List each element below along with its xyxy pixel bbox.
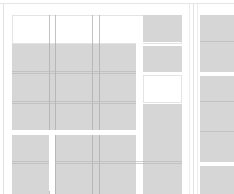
grid-line-h5 bbox=[12, 161, 182, 162]
grid-line-h1 bbox=[12, 71, 136, 72]
right-grid-line-2 bbox=[200, 101, 234, 102]
tile-col1-lower[interactable] bbox=[12, 135, 49, 194]
right-grid-line-3 bbox=[200, 131, 234, 132]
tile-col4-row1[interactable] bbox=[143, 46, 182, 72]
tile-col23-lower[interactable] bbox=[55, 135, 136, 194]
right-grid-line-1 bbox=[200, 41, 234, 42]
tile-col4-lower[interactable] bbox=[143, 104, 182, 194]
grid-line-v3 bbox=[92, 15, 93, 194]
grid-line-h6 bbox=[12, 163, 182, 164]
grid-line-h4 bbox=[12, 103, 136, 104]
row-gutter bbox=[12, 130, 136, 135]
grid-line-h2 bbox=[12, 73, 136, 74]
tile-header-col4[interactable] bbox=[143, 15, 182, 42]
grid-line-v4 bbox=[99, 15, 100, 194]
tile-block-upper[interactable] bbox=[12, 44, 136, 130]
right-tile-1[interactable] bbox=[200, 15, 234, 72]
right-tile-2[interactable] bbox=[200, 76, 234, 162]
column-gutter bbox=[136, 42, 143, 194]
column-gutter-lower bbox=[49, 135, 55, 191]
tile-col4-row2-empty[interactable] bbox=[143, 75, 182, 103]
grid-line-h3 bbox=[12, 101, 136, 102]
grid-line-v2 bbox=[55, 15, 56, 194]
right-tile-3[interactable] bbox=[200, 166, 234, 194]
